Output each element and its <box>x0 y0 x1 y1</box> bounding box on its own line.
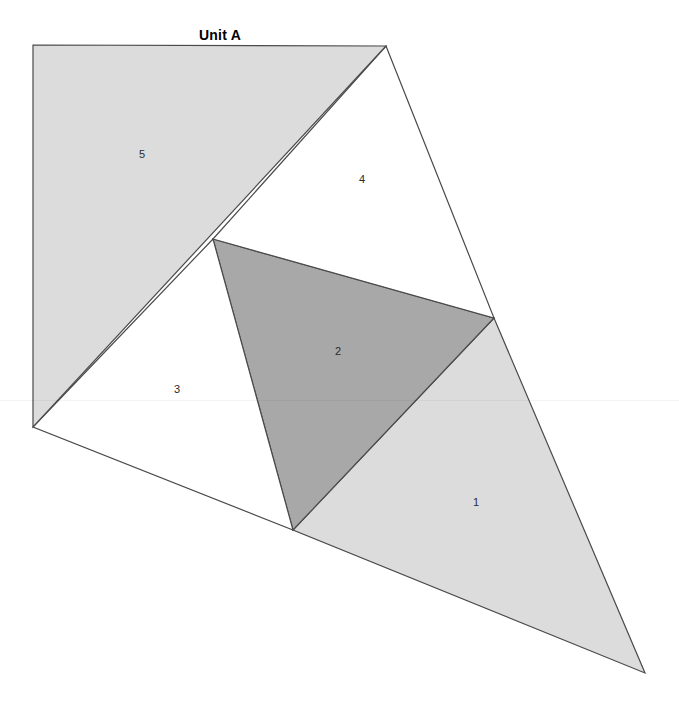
region-label-2: 2 <box>335 345 341 357</box>
unit-a-polygon-figure: 12345 <box>0 0 679 719</box>
diagram-canvas: Unit A 12345 <box>0 0 679 719</box>
region-label-3: 3 <box>174 383 180 395</box>
render-seam-line <box>0 400 679 401</box>
region-label-5: 5 <box>139 148 145 160</box>
region-group <box>33 45 645 673</box>
region-label-4: 4 <box>359 173 365 185</box>
region-label-1: 1 <box>473 496 479 508</box>
